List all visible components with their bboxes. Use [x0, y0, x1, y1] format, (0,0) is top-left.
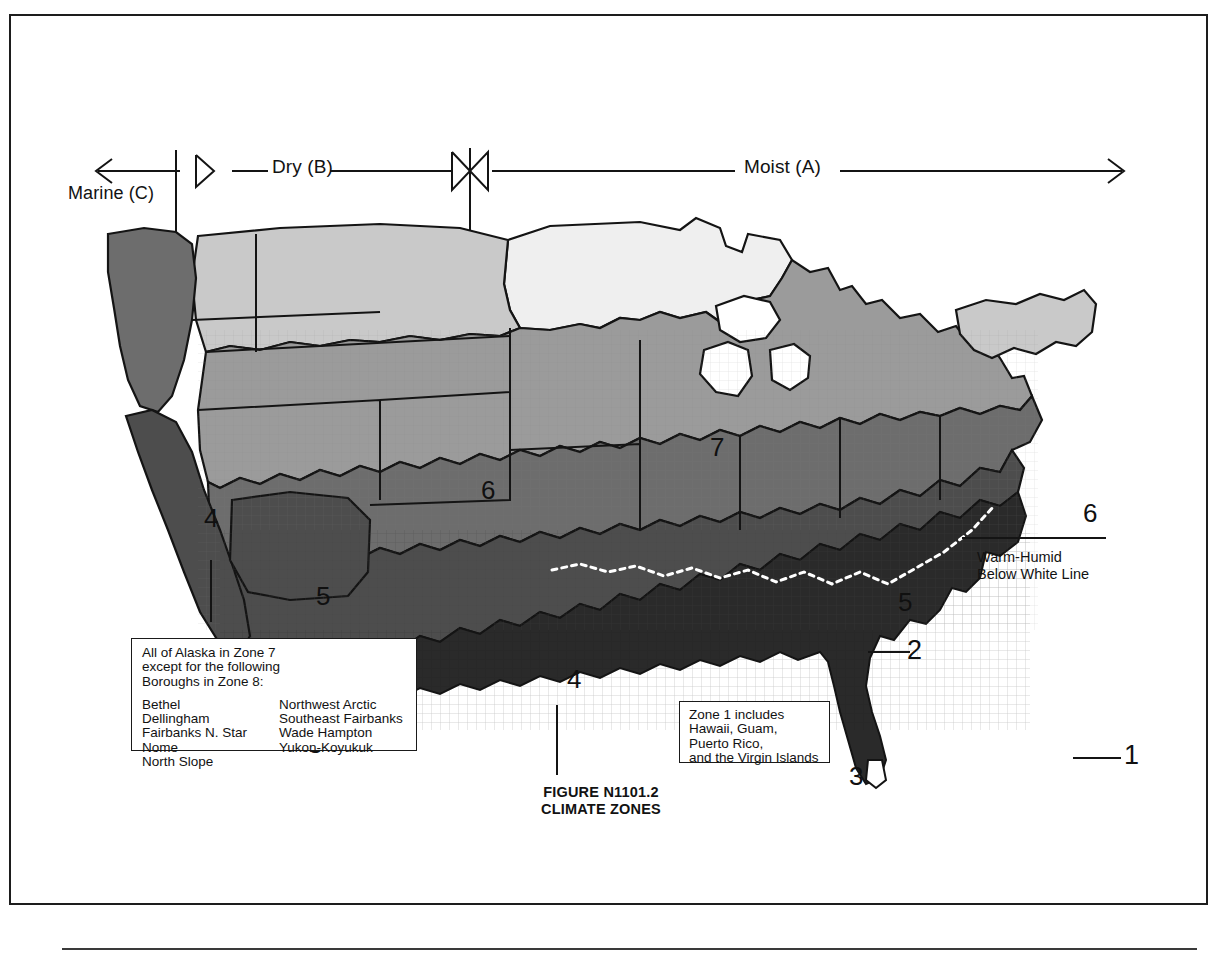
- zone1-note-line-2: Hawaii, Guam,: [689, 722, 829, 736]
- figure-number: FIGURE N1101.2: [501, 784, 701, 801]
- southwest-zone-leader-line: [210, 560, 212, 622]
- zone1-note-line-3: Puerto Rico,: [689, 737, 829, 751]
- marine-dry-divider-cone: [196, 155, 214, 187]
- zone-label-northern-new-england: 6: [1083, 500, 1097, 526]
- alaska-borough-item: Wade Hampton: [279, 726, 403, 740]
- zone-label-northern-rockies: 6: [481, 477, 495, 503]
- warm-humid-note-rule: [962, 537, 1106, 539]
- alaska-borough-item: Fairbanks N. Star: [142, 726, 279, 740]
- warm-humid-note: Warm-Humid Below White Line: [977, 549, 1089, 582]
- zone-label-pacific-northwest: 4: [204, 505, 218, 531]
- alaska-borough-item: Southeast Fairbanks: [279, 712, 403, 726]
- caption-leader-line: [556, 705, 558, 775]
- alaska-zone-note-box: All of Alaska in Zone 7 except for the f…: [131, 638, 417, 751]
- axis-label-moist: Moist (A): [744, 156, 821, 178]
- zone-1-includes-note-box: Zone 1 includes Hawaii, Guam, Puerto Ric…: [679, 701, 830, 763]
- alaska-borough-item: North Slope: [142, 755, 279, 769]
- alaska-borough-column-right: Northwest Arctic Southeast Fairbanks Wad…: [279, 698, 403, 769]
- alaska-borough-columns: Bethel Dellingham Fairbanks N. Star Nome…: [142, 698, 416, 769]
- zone1-note-line-4: and the Virgin Islands: [689, 751, 829, 765]
- zone-label-deep-south: 3: [849, 763, 863, 789]
- zone-1-leader-line: [1073, 757, 1121, 759]
- figure-title: CLIMATE ZONES: [501, 801, 701, 818]
- zone-label-great-lakes-east: 5: [898, 589, 912, 615]
- zone-label-central-plains: 4: [567, 666, 581, 692]
- alaska-borough-item: Nome: [142, 741, 279, 755]
- zone1-note-line-1: Zone 1 includes: [689, 708, 829, 722]
- alaska-borough-column-left: Bethel Dellingham Fairbanks N. Star Nome…: [142, 698, 279, 769]
- alaska-borough-item: Bethel: [142, 698, 279, 712]
- alaska-note-line-1: All of Alaska in Zone 7: [142, 646, 416, 660]
- zone-label-upper-midwest: 7: [710, 434, 724, 460]
- climate-zone-figure-page: Marine (C) Dry (B) Moist (A): [0, 0, 1217, 972]
- zone-label-florida-keys: 1: [1124, 742, 1139, 769]
- alaska-borough-item: Yukon-Koyukuk: [279, 741, 403, 755]
- warm-humid-line-2: Below White Line: [977, 566, 1089, 583]
- alaska-borough-item: Dellingham: [142, 712, 279, 726]
- alaska-borough-item: Northwest Arctic: [279, 698, 403, 712]
- zone-label-great-basin: 5: [316, 583, 330, 609]
- zone-2-leader-line: [868, 651, 910, 653]
- alaska-note-line-3: Boroughs in Zone 8:: [142, 675, 416, 689]
- alaska-note-line-2: except for the following: [142, 660, 416, 674]
- zone-4-marine-coastal-region: [108, 228, 196, 412]
- figure-caption: FIGURE N1101.2 CLIMATE ZONES: [501, 784, 701, 818]
- axis-label-dry: Dry (B): [272, 156, 333, 178]
- warm-humid-line-1: Warm-Humid: [977, 549, 1089, 566]
